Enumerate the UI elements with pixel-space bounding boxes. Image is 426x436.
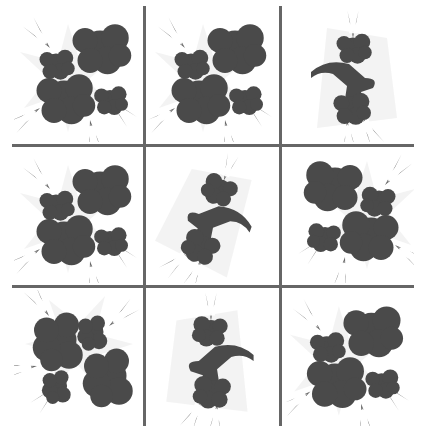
grid-cell-r3-c2[interactable] (148, 290, 278, 426)
explosion-icon (284, 149, 414, 283)
smoke-trail-icon (148, 149, 278, 283)
grid-cell-r2-c3[interactable] (284, 149, 414, 283)
smoke-trail-icon (148, 290, 278, 426)
explosion-icon (14, 149, 142, 283)
grid-line-vertical-1 (143, 6, 146, 426)
grid-line-horizontal-1 (12, 144, 414, 147)
grid-line-vertical-2 (279, 6, 282, 426)
explosion-icon (148, 8, 278, 142)
grid-cell-r2-c1[interactable] (14, 149, 142, 283)
grid-cell-r1-c2[interactable] (148, 8, 278, 142)
explosion-icon (284, 290, 414, 426)
grid-cell-r3-c1[interactable] (14, 290, 142, 426)
puzzle-board (0, 0, 426, 436)
explosion-icon (14, 290, 142, 426)
smoke-trail-icon (284, 8, 414, 142)
grid-cell-r2-c2[interactable] (148, 149, 278, 283)
grid-line-horizontal-2 (12, 285, 414, 288)
grid-cell-r3-c3[interactable] (284, 290, 414, 426)
grid-cell-r1-c1[interactable] (14, 8, 142, 142)
grid-cell-r1-c3[interactable] (284, 8, 414, 142)
explosion-icon (14, 8, 142, 142)
